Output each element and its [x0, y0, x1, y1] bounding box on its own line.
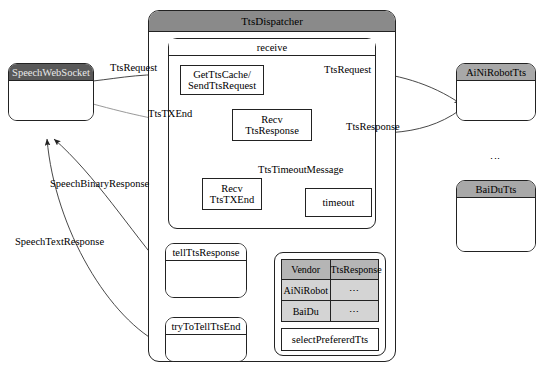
- select-prefererd-tts-button[interactable]: selectPrefererdTts: [281, 328, 379, 351]
- baidu-tts-title: BaiDuTts: [457, 181, 535, 198]
- node-get-tts-cache-line2: SendTtsRequest: [188, 80, 256, 92]
- try-to-tell-tts-end-class[interactable]: tryToTellTtsEnd: [165, 317, 247, 362]
- vendor-table: Vendor TtsResponse AiNiRobot ⋯ BaiDu ⋯: [281, 259, 379, 322]
- vendor-table-header-row: Vendor TtsResponse: [282, 260, 379, 280]
- vendor-table-module[interactable]: Vendor TtsResponse AiNiRobot ⋯ BaiDu ⋯ s…: [274, 252, 386, 356]
- node-get-tts-cache-line1: GetTtsCache/: [193, 69, 251, 81]
- vendor-ellipsis-icon: ⋮: [492, 150, 502, 168]
- label-tts-request-right: TtsRequest: [324, 64, 371, 75]
- node-recv-tts-response[interactable]: Recv TtsResponse: [232, 109, 312, 141]
- table-row: BaiDu ⋯: [282, 301, 379, 322]
- node-timeout-label: timeout: [322, 197, 354, 209]
- speech-websocket-class[interactable]: SpeechWebSocket: [8, 63, 94, 121]
- speech-websocket-title: SpeechWebSocket: [9, 64, 93, 81]
- tell-tts-response-class[interactable]: tellTtsResponse: [165, 243, 247, 298]
- tts-dispatcher-title: TtsDispatcher: [149, 11, 395, 32]
- node-timeout[interactable]: timeout: [305, 188, 372, 217]
- baidu-tts-body: [457, 198, 535, 251]
- tell-tts-response-title: tellTtsResponse: [166, 244, 246, 261]
- tell-tts-response-body: [166, 261, 246, 297]
- ainirobot-tts-class[interactable]: AiNiRobotTts: [456, 63, 536, 121]
- ttsresponse-col-header: TtsResponse: [330, 260, 379, 280]
- ainirobot-tts-title: AiNiRobotTts: [457, 64, 535, 81]
- speech-websocket-body: [9, 81, 93, 120]
- vendor-cell: AiNiRobot: [282, 280, 331, 301]
- label-speech-binary-response: SpeechBinaryResponse: [50, 178, 149, 189]
- node-recv-tts-txend[interactable]: Recv TtsTXEnd: [202, 178, 262, 210]
- label-tts-timeout-message: TtsTimeoutMessage: [258, 164, 343, 175]
- label-tts-request-left: TtsRequest: [110, 62, 157, 73]
- ainirobot-tts-body: [457, 81, 535, 120]
- label-tts-response: TtsResponse: [346, 121, 400, 132]
- receive-title: receive: [169, 39, 375, 56]
- try-to-tell-tts-end-title: tryToTellTtsEnd: [166, 318, 246, 335]
- vendor-col-header: Vendor: [282, 260, 331, 280]
- node-recv-tts-response-line2: TtsResponse: [245, 125, 299, 137]
- ttsresponse-cell: ⋯: [330, 280, 379, 301]
- node-recv-tts-txend-line2: TtsTXEnd: [210, 194, 254, 206]
- vendor-cell: BaiDu: [282, 301, 331, 322]
- label-speech-text-response: SpeechTextResponse: [15, 236, 104, 247]
- try-to-tell-tts-end-body: [166, 335, 246, 361]
- ttsresponse-cell: ⋯: [330, 301, 379, 322]
- baidu-tts-class[interactable]: BaiDuTts: [456, 180, 536, 252]
- table-row: AiNiRobot ⋯: [282, 280, 379, 301]
- diagram-canvas: SpeechWebSocket TtsDispatcher receive Ge…: [0, 0, 544, 380]
- node-recv-tts-response-line1: Recv: [261, 114, 283, 126]
- node-recv-tts-txend-line1: Recv: [221, 183, 243, 195]
- node-get-tts-cache[interactable]: GetTtsCache/ SendTtsRequest: [180, 65, 264, 95]
- label-tts-txend: TtsTXEnd: [148, 108, 192, 119]
